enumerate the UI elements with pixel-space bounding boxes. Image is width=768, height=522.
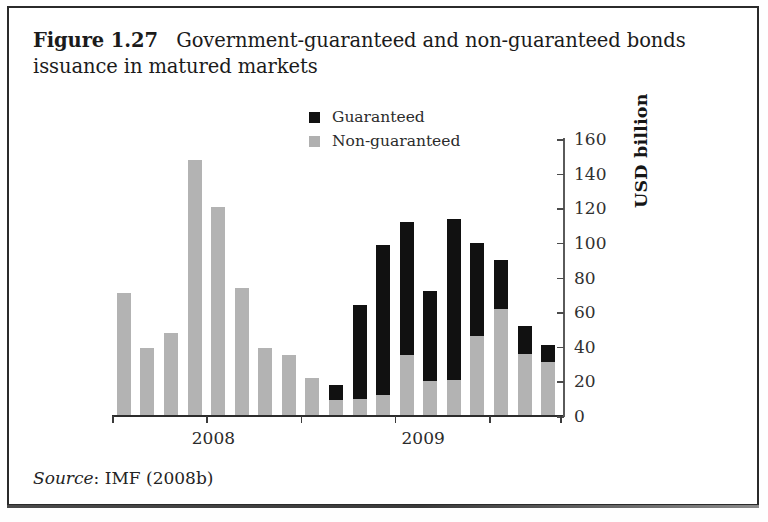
y-axis-title: USD billion	[631, 93, 651, 208]
y-axis-tick-label: 20	[574, 371, 596, 391]
bar-segment-guaranteed	[376, 245, 390, 396]
bar-slot	[348, 139, 372, 416]
bar-slot	[206, 139, 230, 416]
bar-segment-guaranteed	[541, 345, 555, 362]
stacked-bar	[376, 245, 390, 416]
bar-segment-guaranteed	[353, 305, 367, 398]
bar-segment-guaranteed	[518, 326, 532, 354]
bar-slot	[489, 139, 513, 416]
bar-slot	[419, 139, 443, 416]
bar-series-container	[112, 139, 560, 416]
bar-segment-non-guaranteed	[140, 348, 154, 416]
y-axis-tick	[557, 381, 564, 383]
y-axis-tick-label: 140	[574, 164, 606, 184]
bar-segment-non-guaranteed	[353, 399, 367, 416]
bar-segment-non-guaranteed	[329, 400, 343, 416]
y-axis-tick	[557, 278, 564, 280]
stacked-bar	[447, 219, 461, 416]
bar-slot	[466, 139, 490, 416]
bar-slot	[183, 139, 207, 416]
bar-slot	[324, 139, 348, 416]
x-axis-tick	[489, 416, 491, 423]
figure-frame: Figure 1.27 Government-guaranteed and no…	[7, 6, 759, 506]
stacked-bar	[541, 345, 555, 416]
y-axis-tick-label: 160	[574, 129, 606, 149]
bar-segment-non-guaranteed	[541, 362, 555, 416]
y-axis-tick	[557, 208, 564, 210]
y-axis-tick	[557, 139, 564, 141]
bar-segment-non-guaranteed	[400, 355, 414, 416]
x-axis-tick	[206, 416, 208, 423]
y-axis-tick	[557, 243, 564, 245]
bar-slot	[513, 139, 537, 416]
stacked-bar	[235, 288, 249, 416]
x-axis-group-label: 2008	[192, 428, 235, 448]
bar-segment-non-guaranteed	[518, 354, 532, 416]
legend-label-guaranteed: Guaranteed	[332, 108, 425, 126]
bar-slot	[277, 139, 301, 416]
bar-segment-non-guaranteed	[282, 355, 296, 416]
y-axis-tick	[557, 174, 564, 176]
figure-page: Figure 1.27 Government-guaranteed and no…	[0, 0, 768, 522]
x-axis-line	[112, 415, 564, 417]
source-label: Source	[33, 468, 94, 488]
bar-segment-non-guaranteed	[188, 160, 202, 416]
bar-slot	[395, 139, 419, 416]
bar-segment-guaranteed	[329, 385, 343, 401]
y-axis-tick-label: 0	[574, 406, 585, 426]
y-axis-tick-label: 40	[574, 337, 596, 357]
bar-slot	[301, 139, 325, 416]
bar-segment-guaranteed	[447, 219, 461, 380]
bar-segment-non-guaranteed	[447, 380, 461, 416]
legend-item-guaranteed: Guaranteed	[309, 106, 460, 128]
y-axis-tick-label: 120	[574, 198, 606, 218]
x-axis-tick	[395, 416, 397, 423]
stacked-bar	[258, 348, 272, 416]
bar-segment-guaranteed	[400, 222, 414, 355]
x-axis-tick	[560, 416, 562, 423]
bar-segment-non-guaranteed	[117, 293, 131, 416]
stacked-bar	[211, 207, 225, 416]
bar-segment-guaranteed	[470, 243, 484, 336]
bar-segment-non-guaranteed	[235, 288, 249, 416]
legend-swatch-guaranteed-icon	[309, 112, 320, 123]
x-axis-group-label: 2009	[402, 428, 445, 448]
stacked-bar	[305, 378, 319, 416]
bar-slot	[442, 139, 466, 416]
stacked-bar	[353, 305, 367, 416]
stacked-bar	[470, 243, 484, 416]
bar-segment-non-guaranteed	[470, 336, 484, 416]
bar-segment-non-guaranteed	[494, 309, 508, 416]
stacked-bar	[164, 333, 178, 416]
y-axis-tick	[557, 312, 564, 314]
y-axis-tick-label: 60	[574, 302, 596, 322]
source-note: Source: IMF (2008b)	[33, 468, 213, 488]
stacked-bar	[329, 385, 343, 416]
stacked-bar	[400, 222, 414, 416]
y-axis-tick-label: 100	[574, 233, 606, 253]
stacked-bar	[494, 260, 508, 416]
bar-slot	[136, 139, 160, 416]
bar-slot	[230, 139, 254, 416]
plot-area	[112, 139, 560, 416]
bar-segment-non-guaranteed	[211, 207, 225, 416]
y-axis-tick	[557, 347, 564, 349]
stacked-bar	[423, 291, 437, 416]
chart-area: Guaranteed Non-guaranteed 02040608010012…	[9, 8, 761, 508]
bar-segment-non-guaranteed	[423, 381, 437, 416]
source-value: : IMF (2008b)	[94, 468, 214, 488]
stacked-bar	[282, 355, 296, 416]
bar-segment-guaranteed	[423, 291, 437, 381]
stacked-bar	[188, 160, 202, 416]
bar-segment-guaranteed	[494, 260, 508, 308]
bar-segment-non-guaranteed	[305, 378, 319, 416]
bar-segment-non-guaranteed	[164, 333, 178, 416]
y-axis-tick-label: 80	[574, 268, 596, 288]
x-axis-tick	[112, 416, 114, 423]
bar-slot	[112, 139, 136, 416]
bar-slot	[159, 139, 183, 416]
bar-slot	[371, 139, 395, 416]
stacked-bar	[140, 348, 154, 416]
bar-slot	[253, 139, 277, 416]
x-axis-tick	[301, 416, 303, 423]
